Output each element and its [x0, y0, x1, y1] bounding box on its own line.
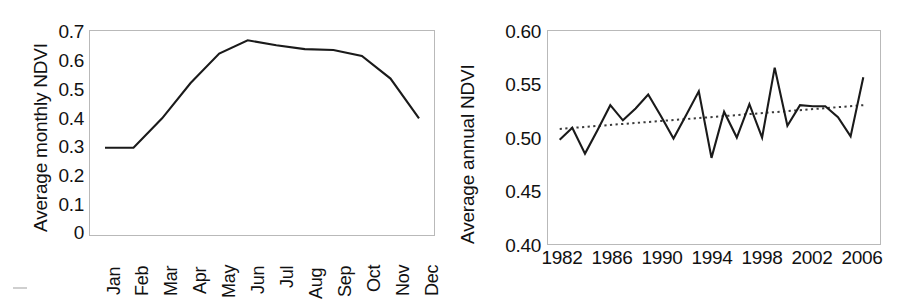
- x-tick-label-jan: Jan: [104, 267, 125, 295]
- y-tick-label: 0.2: [38, 165, 84, 187]
- y-tick-label: 0.4: [38, 108, 84, 130]
- y-tick-label: 0.50: [465, 128, 541, 150]
- x-tick-label-mar: Mar: [161, 266, 182, 296]
- plot-area-monthly: [89, 30, 435, 236]
- plot-area-annual: [547, 30, 881, 245]
- y-tick-label: 0: [38, 222, 84, 244]
- x-tick-label-nov: Nov: [393, 265, 414, 296]
- x-tick-label-may: May: [219, 265, 240, 298]
- x-tick-label-dec: Dec: [422, 265, 443, 296]
- chart-panel-annual-ndvi: Average annual NDVI 0.60 0.55 0.50 0.45 …: [449, 0, 897, 300]
- y-tick-label: 0.1: [38, 194, 84, 216]
- y-tick-label: 0.45: [465, 181, 541, 203]
- x-tick-label-feb: Feb: [132, 266, 153, 296]
- y-tick-label: 0.7: [38, 21, 84, 43]
- y-tick-label: 0.6: [38, 50, 84, 72]
- x-tick-label-oct: Oct: [364, 265, 385, 292]
- x-tick-label-sep: Sep: [335, 266, 356, 297]
- x-tick-label-2006: 2006: [830, 247, 894, 269]
- scan-artifact: [13, 287, 27, 289]
- y-tick-label: 0.60: [465, 21, 541, 43]
- figure-container: Average monthly NDVI 0.7 0.6 0.5 0.4 0.3…: [0, 0, 897, 300]
- chart-panel-monthly-ndvi: Average monthly NDVI 0.7 0.6 0.5 0.4 0.3…: [0, 0, 448, 300]
- x-tick-label-apr: Apr: [190, 267, 211, 294]
- plot-frame-monthly: [90, 31, 435, 236]
- x-tick-label-aug: Aug: [306, 268, 327, 299]
- x-tick-label-jun: Jun: [248, 266, 269, 294]
- y-tick-label: 0.5: [38, 79, 84, 101]
- x-tick-label-jul: Jul: [277, 266, 298, 288]
- y-tick-label: 0.55: [465, 74, 541, 96]
- y-tick-label: 0.3: [38, 136, 84, 158]
- plot-frame-annual: [548, 31, 881, 245]
